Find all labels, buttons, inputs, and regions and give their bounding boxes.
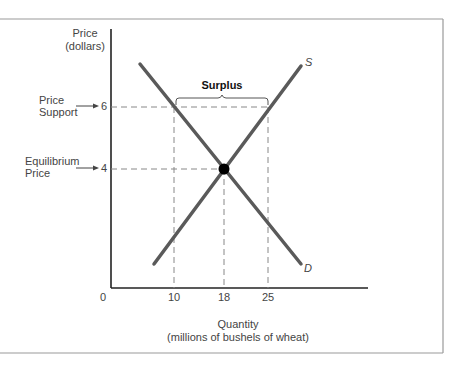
- equilibrium-label-line2: Price: [25, 167, 50, 179]
- price-support-label-line2: Support: [39, 106, 78, 118]
- x-tick-0: 0: [100, 291, 106, 303]
- x-tick-25: 25: [262, 291, 274, 303]
- price-support-arrowhead-icon: [93, 104, 99, 109]
- equilibrium-point: [219, 164, 230, 175]
- x-axis-title: Quantity: [218, 318, 259, 330]
- surplus-label: Surplus: [202, 79, 243, 91]
- y-axis-subtitle: (dollars): [65, 40, 105, 52]
- x-tick-10: 10: [168, 291, 180, 303]
- supply-label: S: [305, 56, 313, 68]
- demand-curve: [140, 64, 301, 264]
- demand-label: D: [304, 262, 312, 274]
- y-tick-6: 6: [101, 100, 107, 112]
- x-tick-18: 18: [218, 291, 230, 303]
- equilibrium-arrowhead-icon: [93, 166, 99, 171]
- x-axis-subtitle: (millions of bushels of wheat): [167, 331, 309, 343]
- y-axis-title: Price: [72, 27, 97, 39]
- price-support-label-line1: Price: [39, 94, 64, 106]
- equilibrium-label-line1: Equilibrium: [25, 155, 79, 167]
- surplus-brace: [176, 95, 268, 105]
- y-tick-4: 4: [101, 162, 107, 174]
- supply-demand-chart: Surplus S D Price (dollars) Price Suppor…: [0, 0, 458, 368]
